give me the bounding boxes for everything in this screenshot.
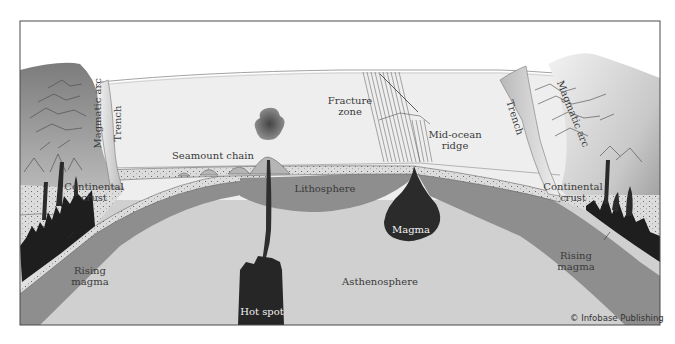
label-lithosphere: Lithosphere — [290, 183, 360, 194]
label-continental-crust-right-line2: crust — [543, 192, 603, 203]
label-hot-spot: Hot spot — [237, 306, 287, 317]
label-rising-magma-right-line1: Rising — [556, 250, 596, 261]
diagram-canvas: Magmatic arc Trench Continental crust Ri… — [0, 0, 675, 344]
label-magma: Magma — [386, 224, 436, 235]
label-mid-ocean-ridge-line2: ridge — [425, 140, 485, 151]
label-seamount-chain: Seamount chain — [168, 150, 258, 161]
label-mid-ocean-ridge-line1: Mid-ocean — [425, 129, 485, 140]
label-fracture-zone-line2: zone — [325, 106, 375, 117]
label-rising-magma-left-line2: magma — [70, 276, 110, 287]
label-continental-crust-right-line1: Continental — [543, 181, 603, 192]
label-rising-magma-right-line2: magma — [556, 261, 596, 272]
label-continental-crust-left-line1: Continental — [64, 181, 124, 192]
cross-section-illustration — [0, 0, 675, 344]
label-trench-left: Trench — [112, 99, 123, 149]
label-fracture-zone-line1: Fracture — [325, 95, 375, 106]
label-magmatic-arc-left: Magmatic arc — [92, 79, 103, 149]
label-continental-crust-left-line2: crust — [64, 192, 124, 203]
label-asthenosphere: Asthenosphere — [340, 276, 420, 287]
label-rising-magma-left-line1: Rising — [70, 265, 110, 276]
copyright-credit: © Infobase Publishing — [570, 313, 664, 323]
